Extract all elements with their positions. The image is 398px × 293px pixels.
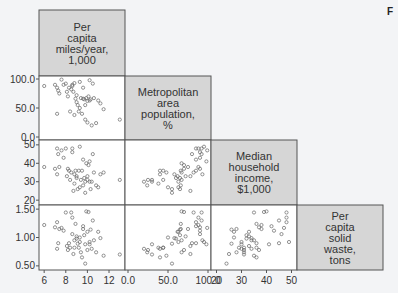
x-tick-label: 50	[286, 275, 298, 286]
y-tick-label: 0.50	[16, 260, 36, 271]
variable-label-line: %	[163, 119, 173, 131]
y-tick-label: 100.0	[10, 74, 35, 85]
scatter-panel	[39, 205, 125, 270]
x-tick-label: 8	[63, 275, 69, 286]
x-tick-label: 10	[82, 275, 94, 286]
scatter-panel	[39, 76, 125, 140]
variable-label-line: $1,000	[237, 183, 271, 195]
x-axes: 6810120.050.0100.020304050	[41, 270, 297, 286]
scatter-panel	[125, 205, 211, 270]
variable-label-line: tons	[330, 254, 351, 266]
y-tick-label: 50.0	[16, 103, 36, 114]
variable-label-line: 1,000	[68, 54, 96, 66]
y-tick-label: 1.00	[16, 232, 36, 243]
y-tick-label: 1.50	[16, 204, 36, 215]
x-tick-label: 6	[41, 275, 47, 286]
x-tick-label: 0.0	[121, 275, 135, 286]
scatter-panel	[211, 205, 297, 270]
x-tick-label: 20	[211, 275, 223, 286]
x-tick-label: 12	[103, 275, 115, 286]
y-axes: 0.050.0100.0203040500.501.001.50	[10, 74, 39, 272]
cropped-text-fragment: F	[387, 6, 393, 17]
y-tick-label: 50	[24, 139, 36, 150]
y-tick-label: 40	[24, 158, 36, 169]
x-tick-label: 40	[261, 275, 273, 286]
scatterplot-matrix: Percapitamiles/year,1,000Metropolitanare…	[0, 0, 398, 293]
y-tick-label: 30	[24, 176, 36, 187]
x-tick-label: 50.0	[158, 275, 178, 286]
x-tick-label: 30	[236, 275, 248, 286]
